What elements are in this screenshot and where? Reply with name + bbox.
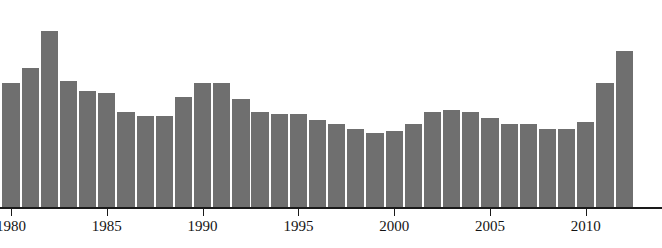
bar <box>539 129 556 208</box>
bar <box>405 124 422 208</box>
x-axis-tick <box>586 209 587 216</box>
bar <box>309 120 326 208</box>
bar <box>22 68 39 208</box>
x-axis-tick-label: 2000 <box>364 216 424 236</box>
bar <box>79 91 96 208</box>
bar <box>175 97 192 208</box>
x-axis-tick <box>394 209 395 216</box>
x-axis-tick <box>298 209 299 216</box>
bar <box>366 133 383 208</box>
bar <box>290 114 307 208</box>
x-axis-tick <box>107 209 108 216</box>
bar <box>328 124 345 208</box>
bar <box>520 124 537 208</box>
bar <box>501 124 518 208</box>
bar <box>271 114 288 208</box>
bar <box>424 112 441 208</box>
bar <box>251 112 268 208</box>
bar <box>462 112 479 208</box>
bar <box>137 116 154 208</box>
bar <box>386 131 403 208</box>
x-axis-tick-label: 1980 <box>0 216 41 236</box>
x-axis-tick-label: 2010 <box>556 216 616 236</box>
bar <box>194 83 211 208</box>
bar <box>616 51 633 208</box>
x-axis-tick <box>203 209 204 216</box>
bar <box>558 129 575 208</box>
bar <box>577 122 594 208</box>
bar <box>213 83 230 208</box>
bar <box>41 31 58 208</box>
bar <box>481 118 498 208</box>
x-axis-tick-label: 2005 <box>460 216 520 236</box>
bar <box>117 112 134 208</box>
bar <box>60 81 77 208</box>
x-axis-tick <box>11 209 12 216</box>
x-axis-tick-label: 1985 <box>77 216 137 236</box>
bar <box>98 93 115 208</box>
bar <box>596 83 613 208</box>
plot-area <box>0 0 662 208</box>
bar <box>443 110 460 208</box>
x-axis-tick-label: 1990 <box>173 216 233 236</box>
x-axis-tick-label: 1995 <box>268 216 328 236</box>
bar-chart: 1980198519901995200020052010 <box>0 0 662 248</box>
bar <box>2 83 19 208</box>
bar <box>347 129 364 208</box>
x-axis-line <box>0 207 662 209</box>
bar <box>156 116 173 208</box>
bar <box>232 99 249 208</box>
x-axis-tick <box>490 209 491 216</box>
